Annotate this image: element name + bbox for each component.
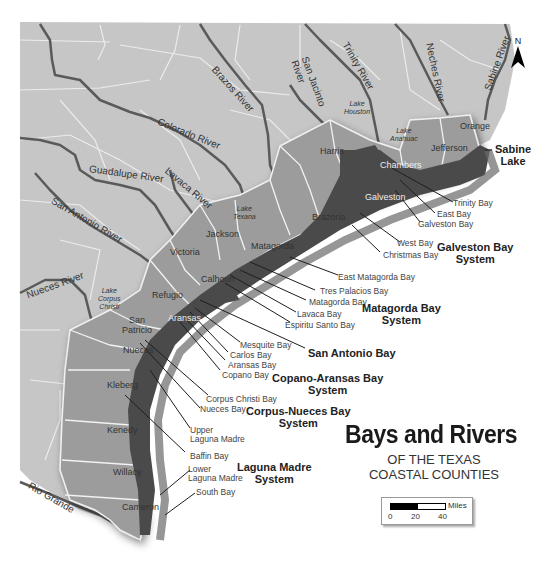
subtitle-line2: COASTAL COUNTIES — [364, 467, 504, 482]
system-copano-aransas-bay: Copano-Aransas Bay System — [272, 372, 383, 396]
bay-baffin: Baffin Bay — [190, 451, 229, 461]
county-kenedy: Kenedy — [107, 425, 138, 435]
bay-lavaca: Lavaca Bay — [297, 309, 341, 319]
map-title: Bays and Rivers — [345, 420, 517, 449]
scale-tick-0: 0 — [388, 512, 392, 521]
upper-laguna-line2: Laguna Madre — [190, 435, 245, 444]
bay-trinity: Trinity Bay — [453, 198, 493, 208]
laguna-madre-system-line1: Laguna Madre — [237, 461, 312, 473]
bay-carlos: Carlos Bay — [230, 350, 272, 360]
san-antonio-system-line1: San Antonio Bay — [308, 347, 396, 359]
lake-cc-line3: Christi — [98, 303, 121, 311]
lake-texana-line1: Lake — [233, 205, 256, 213]
bay-christmas: Christmas Bay — [383, 250, 438, 260]
scale-tick-20: 20 — [411, 512, 420, 521]
map-subtitle: OF THE TEXAS COASTAL COUNTIES — [364, 452, 504, 482]
bay-south: South Bay — [196, 487, 235, 497]
county-kleberg: Kleberg — [107, 380, 138, 390]
county-nueces: Nueces — [123, 345, 154, 355]
san-patricio-line2: Patricio — [122, 325, 152, 335]
bay-lower-laguna-madre: Lower Laguna Madre — [188, 465, 243, 483]
lake-cc-line1: Lake — [98, 287, 121, 295]
galveston-system-line2: System — [437, 253, 513, 265]
copano-aransas-system-line2: System — [272, 384, 383, 396]
scale-bar: Miles 0 20 40 — [381, 497, 473, 525]
lake-anahuac-line1: Lake — [390, 127, 418, 135]
north-arrow: N — [511, 36, 525, 72]
county-victoria: Victoria — [170, 247, 200, 257]
bay-nueces: Nueces Bay — [200, 404, 246, 414]
sabine-lake-label: Sabine Lake — [495, 143, 531, 167]
sabine-lake-line1: Sabine — [495, 143, 531, 155]
lake-houston-line2: Houston — [344, 108, 370, 116]
county-willacy: Willacy — [113, 467, 142, 477]
bay-mesquite: Mesquite Bay — [240, 340, 292, 350]
county-calhoun: Calhoun — [201, 274, 235, 284]
lake-anahuac-line2: Anahuac — [390, 135, 418, 143]
bay-galveston: Galveston Bay — [418, 219, 473, 229]
system-laguna-madre: Laguna Madre System — [237, 461, 312, 485]
matagorda-system-line1: Matagorda Bay — [362, 302, 441, 314]
matagorda-system-line2: System — [362, 314, 441, 326]
county-jefferson: Jefferson — [431, 143, 468, 153]
system-galveston-bay: Galveston Bay System — [437, 241, 513, 265]
bay-east-matagorda: East Matagorda Bay — [338, 272, 415, 282]
laguna-madre-system-line2: System — [237, 473, 312, 485]
county-jackson: Jackson — [206, 229, 239, 239]
county-refugio: Refugio — [152, 290, 183, 300]
bay-upper-laguna-madre: Upper Laguna Madre — [190, 426, 245, 444]
county-san-patricio: San Patricio — [122, 315, 152, 335]
north-arrow-icon — [511, 46, 525, 68]
lake-houston-line1: Lake — [344, 100, 370, 108]
county-harris: Harris — [320, 146, 344, 156]
bay-espiritu-santo: Espiritu Santo Bay — [285, 320, 355, 330]
county-cameron: Cameron — [122, 502, 159, 512]
corpus-nueces-system-line1: Corpus-Nueces Bay — [246, 405, 351, 417]
lake-cc-line2: Corpus — [98, 295, 121, 303]
lake-label-anahuac: Lake Anahuac — [390, 127, 418, 143]
san-patricio-line1: San — [122, 315, 152, 325]
bay-aransas: Aransas Bay — [228, 360, 276, 370]
sabine-lake-line2: Lake — [495, 155, 531, 167]
county-orange: Orange — [460, 121, 490, 131]
county-aransas: Aransas — [168, 313, 201, 323]
bay-west: West Bay — [397, 238, 433, 248]
system-matagorda-bay: Matagorda Bay System — [362, 302, 441, 326]
lake-label-houston: Lake Houston — [344, 100, 370, 116]
bay-corpus-christi: Corpus Christi Bay — [206, 394, 277, 404]
scale-bar-graphic — [390, 503, 446, 510]
bay-matagorda: Matagorda Bay — [309, 297, 367, 307]
lake-label-texana: Lake Texana — [233, 205, 256, 221]
bay-copano: Copano Bay — [222, 370, 269, 380]
scale-unit: Miles — [448, 501, 467, 510]
galveston-system-line1: Galveston Bay — [437, 241, 513, 253]
lake-label-corpus-christi: Lake Corpus Christi — [98, 287, 121, 311]
scale-tick-40: 40 — [438, 512, 447, 521]
north-label: N — [511, 36, 525, 46]
county-brazoria: Brazoria — [312, 212, 346, 222]
county-matagorda: Matagorda — [251, 241, 294, 251]
copano-aransas-system-line1: Copano-Aransas Bay — [272, 372, 383, 384]
bay-east: East Bay — [437, 209, 471, 219]
county-galveston: Galveston — [365, 192, 406, 202]
lower-laguna-line2: Laguna Madre — [188, 474, 243, 483]
lake-texana-line2: Texana — [233, 213, 256, 221]
system-san-antonio-bay: San Antonio Bay — [308, 347, 396, 359]
county-chambers: Chambers — [380, 160, 422, 170]
bay-tres-palacios: Tres Palacios Bay — [320, 286, 388, 296]
subtitle-line1: OF THE TEXAS — [364, 452, 504, 467]
corpus-nueces-system-line2: System — [246, 417, 351, 429]
system-corpus-nueces-bay: Corpus-Nueces Bay System — [246, 405, 351, 429]
